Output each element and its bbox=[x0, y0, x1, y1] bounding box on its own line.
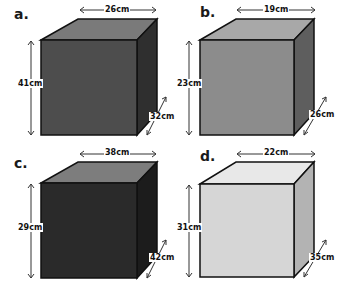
box-b-depth-label: 26cm bbox=[309, 110, 335, 119]
box-c-panel: c. 38cm 29cm 42cm bbox=[0, 143, 175, 286]
box-c-depth-label: 42cm bbox=[149, 253, 175, 262]
box-d-panel: d. 22cm 31cm 35cm bbox=[175, 143, 350, 286]
box-b-label: b. bbox=[200, 4, 215, 20]
box-d-width-label: 22cm bbox=[263, 148, 289, 157]
box-a-width-label: 26cm bbox=[104, 5, 130, 14]
box-b-front-face bbox=[200, 40, 294, 135]
box-d-depth-label: 35cm bbox=[309, 253, 335, 262]
box-b-width-label: 19cm bbox=[263, 5, 289, 14]
box-d-front-face bbox=[200, 184, 294, 277]
box-b-panel: b. 19cm 23cm 26cm bbox=[175, 0, 350, 143]
box-c-width-label: 38cm bbox=[104, 148, 130, 157]
box-d-label: d. bbox=[200, 148, 215, 164]
box-b-drawing bbox=[175, 0, 351, 143]
box-d-height-label: 31cm bbox=[176, 223, 202, 232]
box-a-front-face bbox=[41, 40, 137, 135]
box-a-panel: a. 26cm 41cm 32cm bbox=[0, 0, 175, 143]
box-a-depth-label: 32cm bbox=[149, 112, 175, 121]
box-c-front-face bbox=[41, 183, 137, 278]
box-c-label: c. bbox=[14, 155, 28, 171]
box-a-label: a. bbox=[14, 6, 29, 22]
box-b-height-label: 23cm bbox=[176, 79, 202, 88]
box-c-height-label: 29cm bbox=[17, 223, 43, 232]
box-a-height-label: 41cm bbox=[17, 79, 43, 88]
box-d-drawing bbox=[175, 143, 351, 286]
